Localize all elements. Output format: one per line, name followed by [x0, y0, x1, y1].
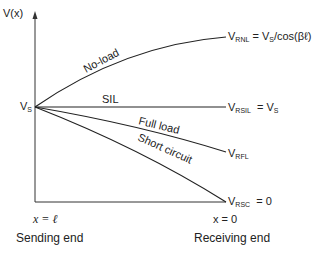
receiving-end-caption: Receiving end [194, 232, 270, 244]
no-load-end-label: VRNL = VS/cos(βℓ) [228, 31, 311, 43]
x-left-label: x = ℓ [33, 213, 57, 225]
sil-end-label: VRSIL = VS [228, 102, 279, 114]
full-load-curve [35, 107, 226, 152]
sending-end-caption: Sending end [16, 232, 83, 244]
short-circuit-curve [35, 107, 226, 202]
y-axis-label: V(x) [3, 8, 23, 19]
sil-label: SIL [102, 94, 119, 105]
short-circuit-end-label: VRSC = 0 [228, 196, 272, 208]
x-right-label: x = 0 [213, 214, 237, 225]
y-axis-arrow-icon [33, 11, 38, 19]
sending-voltage-label: VS [20, 101, 32, 113]
no-load-label: No-load [81, 46, 121, 75]
full-load-end-label: VRFL [228, 148, 249, 160]
short-circuit-label: Short circuit [136, 131, 194, 166]
no-load-curve [35, 37, 226, 107]
